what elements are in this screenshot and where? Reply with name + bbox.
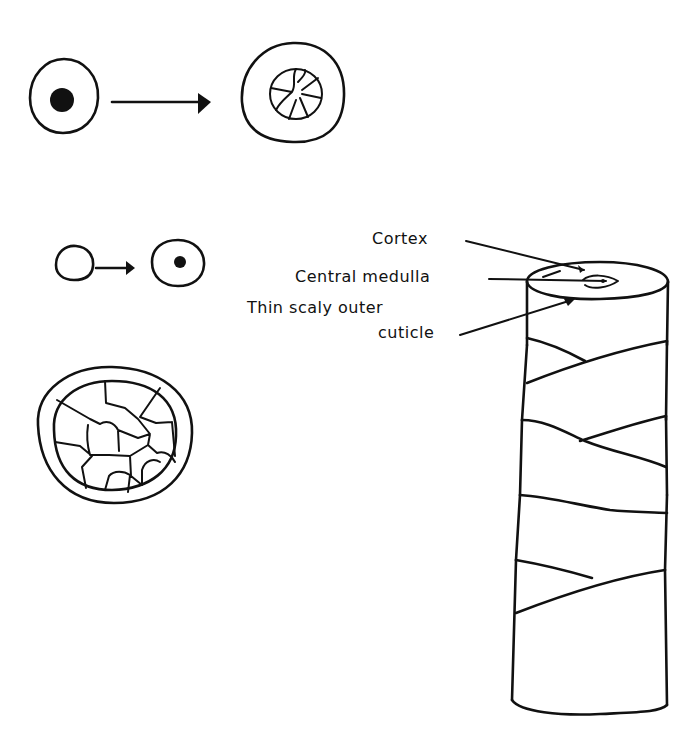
label-cortex: Cortex xyxy=(372,229,428,248)
arrow-right-icon-small xyxy=(96,261,135,275)
arrow-right-icon xyxy=(112,93,211,114)
diagram-drawing: Cortex Central medulla Thin scaly outer … xyxy=(0,0,696,749)
label-central-medulla: Central medulla xyxy=(295,267,430,286)
cell-with-segmented-core xyxy=(242,43,344,142)
label-cuticle-line1: Thin scaly outer xyxy=(246,298,383,317)
label-cuticle-line2: cuticle xyxy=(378,323,434,342)
hair-shaft xyxy=(512,262,668,714)
small-nucleated-cell xyxy=(152,240,204,286)
hair-cross-section xyxy=(38,367,192,503)
cell-with-nucleus xyxy=(30,59,98,133)
hair-structure-diagram: Cortex Central medulla Thin scaly outer … xyxy=(0,0,696,749)
small-empty-cell xyxy=(56,246,93,280)
